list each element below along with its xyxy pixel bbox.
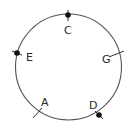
point-e: E [12,50,33,64]
point-label: A [41,96,49,109]
point-dot-icon [65,12,71,18]
point-label: G [102,53,111,66]
point-dot-icon [14,50,20,56]
circle-diagram: CEGAD [0,0,132,128]
point-label: E [26,51,33,64]
tick-mark [109,51,124,57]
point-label: C [64,24,72,37]
point-dot-icon [96,112,102,118]
point-label: D [89,99,97,112]
